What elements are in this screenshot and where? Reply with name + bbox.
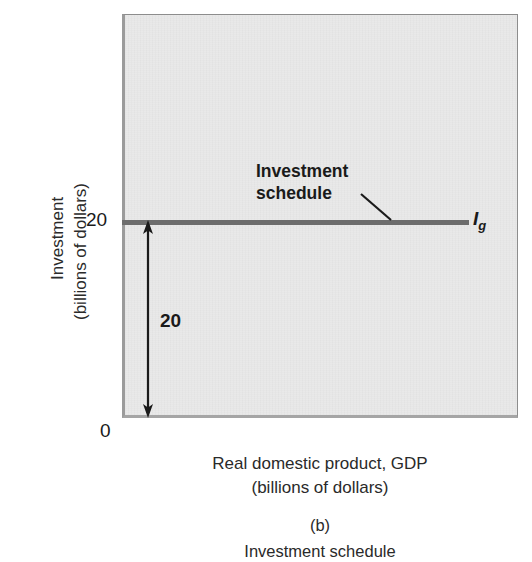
y-axis-title-line1: Investment	[48, 197, 68, 280]
investment-schedule-figure: Ig Investment schedule 20 20 0 Investmen…	[0, 0, 532, 562]
annotation-leader-line	[358, 190, 396, 224]
curve-label-ig-subscript: g	[478, 218, 486, 233]
y-axis-title-line2: (billions of dollars)	[71, 183, 91, 320]
investment-magnitude-arrow	[138, 218, 158, 420]
investment-magnitude-label: 20	[160, 310, 181, 332]
plot-area	[122, 14, 518, 418]
y-axis-title: Investment (billions of dollars)	[0, 0, 120, 418]
figure-caption: (b) Investment schedule	[122, 512, 518, 562]
curve-label-ig: Ig	[473, 208, 486, 233]
x-axis-title-line2: (billions of dollars)	[122, 476, 518, 500]
figure-caption-text: Investment schedule	[122, 538, 518, 562]
schedule-annotation-text: Investment schedule	[256, 160, 348, 205]
investment-schedule-line	[122, 220, 469, 225]
x-axis-title-line1: Real domestic product, GDP	[122, 452, 518, 476]
axis-origin-label: 0	[100, 420, 111, 442]
x-axis-title: Real domestic product, GDP (billions of …	[122, 452, 518, 500]
figure-panel-label: (b)	[122, 512, 518, 538]
